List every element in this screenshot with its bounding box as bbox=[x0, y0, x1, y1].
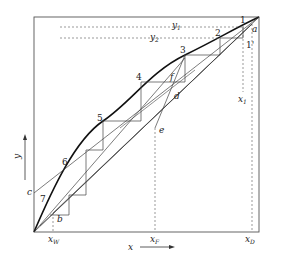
stage-steps bbox=[50, 26, 243, 215]
stage-2-label: 2 bbox=[215, 28, 221, 38]
x-axis-label: x bbox=[128, 242, 133, 252]
stage-7-label: 7 bbox=[40, 194, 46, 204]
y-arrow-head-icon bbox=[23, 134, 27, 140]
stage-3-label: 3 bbox=[180, 45, 186, 55]
y-axis-label: y bbox=[12, 153, 22, 160]
point-e-label: e bbox=[159, 125, 164, 135]
dashed-guides bbox=[53, 24, 252, 232]
xf-label: xF bbox=[150, 234, 160, 245]
stage-1-label: 1 bbox=[240, 15, 246, 25]
point-d-label: d bbox=[174, 91, 180, 101]
stage-5-label: 5 bbox=[97, 113, 103, 123]
point-f-label: f bbox=[169, 72, 175, 82]
y2-label: y2 bbox=[149, 32, 159, 43]
x-arrow-head-icon bbox=[169, 245, 175, 249]
mccabe-thiele-diagram: y x xW xF xD x1 y1 y2 1 2 3 4 5 6 7 a b … bbox=[0, 0, 286, 259]
feed-line-f bbox=[120, 70, 195, 128]
xd-label: xD bbox=[245, 234, 255, 245]
xw-label: xW bbox=[48, 234, 60, 245]
point-1prime-label: 1' bbox=[246, 40, 254, 50]
stage-4-label: 4 bbox=[136, 72, 142, 82]
point-c-label: c bbox=[27, 187, 32, 197]
stage-6-label: 6 bbox=[62, 157, 68, 167]
stripping-line bbox=[34, 58, 185, 232]
point-b-label: b bbox=[57, 214, 63, 224]
point-a-label: a bbox=[252, 24, 257, 34]
y1-label: y1 bbox=[171, 20, 181, 31]
x1-label: x1 bbox=[238, 94, 247, 105]
rectifying-operating-line bbox=[34, 17, 259, 193]
